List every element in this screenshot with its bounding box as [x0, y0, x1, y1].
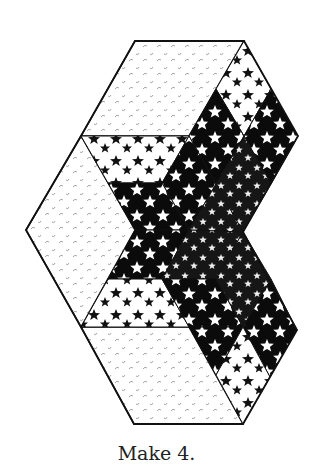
quilt-block-diagram: [0, 0, 313, 440]
caption: Make 4.: [0, 442, 313, 464]
